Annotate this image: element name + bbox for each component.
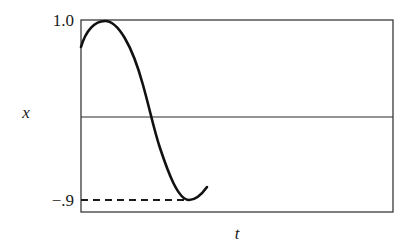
plot-frame <box>81 20 393 212</box>
oscillation-curve <box>81 21 207 200</box>
y-tick-bottom: −.9 <box>52 191 74 210</box>
x-axis-label: t <box>235 224 241 243</box>
damped-oscillation-chart: 1.0 −.9 x t <box>0 0 412 244</box>
y-tick-top: 1.0 <box>53 11 74 30</box>
y-axis-label: x <box>21 103 30 122</box>
